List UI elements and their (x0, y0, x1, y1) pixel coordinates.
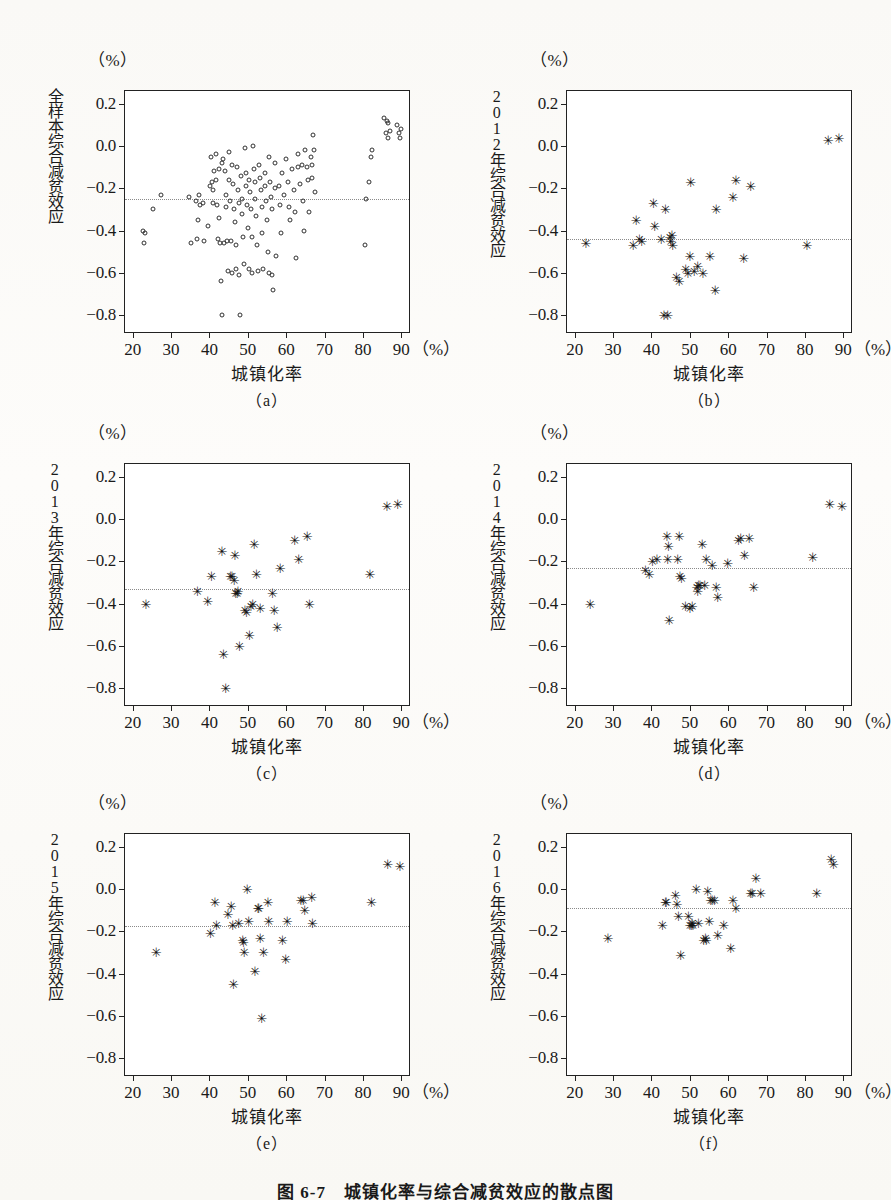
data-point (235, 165, 240, 170)
y-tick-b (561, 231, 567, 232)
data-point (255, 933, 264, 942)
y-tick-f (561, 931, 567, 932)
y-tick-d (561, 519, 567, 520)
x-tick-label-f: 30 (605, 1083, 622, 1103)
data-point (233, 243, 238, 248)
y-axis-title-c: 2013年综合减贫效应 (46, 461, 68, 630)
data-point (687, 601, 696, 610)
panel-d: （%） 2014年综合减贫效应 0.20.0−0.2−0.4−0.6−0.820… (452, 415, 882, 787)
data-point (662, 311, 671, 320)
plot-area-e: 0.20.0−0.2−0.4−0.6−0.82030405060708090 (124, 833, 410, 1076)
data-point (192, 586, 201, 595)
data-point (272, 160, 277, 165)
y-tick-b (561, 188, 567, 189)
data-point (701, 935, 710, 944)
data-point (210, 897, 219, 906)
data-point (223, 192, 228, 197)
data-point (244, 631, 253, 640)
x-tick-label-c: 40 (201, 713, 218, 733)
x-tick-label-a: 40 (201, 340, 218, 360)
y-tick-b (561, 315, 567, 316)
x-tick-label-b: 80 (796, 340, 813, 360)
data-point (704, 916, 713, 925)
y-tick-label-b: −0.6 (528, 263, 558, 283)
x-tick-label-e: 40 (201, 1083, 218, 1103)
y-tick-label-b: 0.2 (538, 94, 558, 114)
y-tick-label-a: −0.4 (86, 221, 116, 241)
y-tick-label-d: −0.8 (528, 678, 558, 698)
data-point (725, 944, 734, 953)
data-point (140, 599, 149, 608)
data-point (258, 188, 263, 193)
data-point (656, 234, 665, 243)
data-point (722, 559, 731, 568)
data-point (301, 228, 306, 233)
x-tick-label-c: 20 (124, 713, 141, 733)
x-tick-c (133, 705, 134, 711)
y-tick-label-f: −0.2 (528, 921, 558, 941)
data-point (824, 500, 833, 509)
y-unit-label-d: （%） (530, 419, 580, 444)
x-tick-label-a: 50 (239, 340, 256, 360)
data-point (213, 177, 218, 182)
data-point (280, 171, 285, 176)
data-point (395, 861, 404, 870)
y-tick-label-a: 0.2 (96, 94, 116, 114)
data-point (233, 918, 242, 927)
y-tick-b (561, 273, 567, 274)
x-tick-a (171, 332, 172, 338)
data-point (274, 253, 279, 258)
plot-area-f: 0.20.0−0.2−0.4−0.6−0.82030405060708090 (566, 833, 852, 1076)
data-point (278, 230, 283, 235)
x-tick-e (363, 1075, 364, 1081)
y-unit-label-b: （%） (530, 46, 580, 71)
data-point (206, 572, 215, 581)
y-tick-f (561, 889, 567, 890)
data-point (252, 179, 257, 184)
data-point (289, 536, 298, 545)
data-point (258, 948, 267, 957)
x-tick-label-d: 90 (835, 713, 852, 733)
y-tick-d (561, 646, 567, 647)
y-tick-a (119, 188, 125, 189)
x-tick-b (843, 332, 844, 338)
data-point (298, 182, 303, 187)
data-point (220, 313, 225, 318)
data-point (664, 616, 673, 625)
data-point (233, 586, 242, 595)
data-point (386, 120, 391, 125)
y-tick-label-f: 0.0 (538, 879, 558, 899)
data-point (697, 540, 706, 549)
y-unit-label-c: （%） (88, 419, 138, 444)
data-point (385, 135, 390, 140)
y-axis-title-e: 2015年综合减贫效应 (46, 831, 68, 1000)
x-tick-f (767, 1075, 768, 1081)
data-point (602, 933, 611, 942)
data-point (238, 313, 243, 318)
data-point (253, 903, 262, 912)
data-point (231, 182, 236, 187)
x-tick-label-e: 20 (124, 1083, 141, 1103)
y-unit-label-e: （%） (88, 789, 138, 814)
x-tick-label-e: 30 (163, 1083, 180, 1103)
data-point (755, 889, 764, 898)
x-tick-label-f: 90 (835, 1083, 852, 1103)
data-point (265, 217, 270, 222)
x-tick-a (133, 332, 134, 338)
y-axis-title-f: 2016年综合减贫效应 (488, 831, 510, 1000)
y-unit-label-a: （%） (88, 46, 138, 71)
x-tick-label-d: 60 (720, 713, 737, 733)
data-point (368, 154, 373, 159)
y-tick-label-d: 0.2 (538, 467, 558, 487)
x-tick-e (286, 1075, 287, 1081)
x-tick-d (805, 705, 806, 711)
data-point (284, 156, 289, 161)
y-tick-label-e: 0.2 (96, 837, 116, 857)
data-point (709, 895, 718, 904)
data-point (217, 167, 222, 172)
data-point (307, 209, 312, 214)
data-point (271, 287, 276, 292)
plot-area-c: 0.20.0−0.2−0.4−0.6−0.82030405060708090 (124, 463, 410, 706)
data-point (644, 569, 653, 578)
figure-caption: 图 6-7 城镇化率与综合减贫效应的散点图 (0, 1178, 891, 1200)
